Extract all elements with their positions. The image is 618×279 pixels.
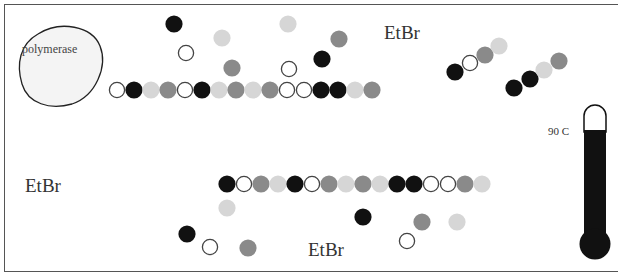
nucleotide-light xyxy=(213,29,230,46)
nucleotide-black xyxy=(405,175,422,192)
nucleotide-gray xyxy=(330,30,347,47)
nucleotide-gray xyxy=(239,239,256,256)
nucleotide-black xyxy=(505,79,522,96)
nucleotide-gray xyxy=(354,175,371,192)
nucleotide-light xyxy=(490,37,507,54)
polymerase-label: polymerase xyxy=(22,42,77,57)
nucleotide-open xyxy=(423,176,438,191)
nucleotide-gray xyxy=(261,81,278,98)
nucleotide-black xyxy=(125,81,142,98)
nucleotide-gray xyxy=(413,213,430,230)
nucleotide-black xyxy=(329,81,346,98)
etbr-label-top: EtBr xyxy=(384,22,420,44)
nucleotide-black xyxy=(178,225,195,242)
nucleotide-open xyxy=(304,176,319,191)
nucleotide-open xyxy=(440,176,455,191)
nucleotide-gray xyxy=(363,81,380,98)
nucleotide-light xyxy=(473,175,490,192)
nucleotide-black xyxy=(218,175,235,192)
nucleotide-light xyxy=(279,15,296,32)
nucleotide-black xyxy=(313,50,330,67)
nucleotide-light xyxy=(269,175,286,192)
nucleotide-light xyxy=(535,61,552,78)
nucleotide-light xyxy=(244,81,261,98)
nucleotide-gray xyxy=(223,59,240,76)
nucleotide-gray xyxy=(550,52,567,69)
nucleotide-open xyxy=(236,176,251,191)
nucleotide-light xyxy=(210,81,227,98)
nucleotide-black xyxy=(388,175,405,192)
nucleotide-black xyxy=(446,63,463,80)
nucleotide-black xyxy=(354,208,371,225)
dna-fragment-diagonal-1 xyxy=(446,37,507,80)
nucleotide-gray xyxy=(456,175,473,192)
nucleotide-light xyxy=(371,175,388,192)
nucleotide-gray xyxy=(252,175,269,192)
nucleotide-open xyxy=(178,45,193,60)
thermometer-icon xyxy=(580,105,611,260)
nucleotide-open xyxy=(279,82,294,97)
free-nucleotides xyxy=(165,15,465,256)
nucleotide-light xyxy=(448,213,465,230)
nucleotide-black xyxy=(312,81,329,98)
nucleotide-light xyxy=(337,175,354,192)
etbr-label-bottom: EtBr xyxy=(308,239,344,261)
nucleotide-gray xyxy=(227,81,244,98)
nucleotide-black xyxy=(286,175,303,192)
dna-fragment-diagonal-2 xyxy=(505,52,567,96)
nucleotide-open xyxy=(109,82,124,97)
nucleotide-gray xyxy=(320,175,337,192)
nucleotide-open xyxy=(177,82,192,97)
temperature-label: 90 C xyxy=(548,125,569,137)
nucleotide-black xyxy=(193,81,210,98)
nucleotide-light xyxy=(142,81,159,98)
etbr-label-left: EtBr xyxy=(25,175,61,197)
nucleotide-open xyxy=(202,239,217,254)
nucleotide-open xyxy=(462,55,477,70)
nucleotide-gray xyxy=(159,81,176,98)
dna-strand-top xyxy=(109,81,380,98)
dna-strand-bottom xyxy=(218,175,490,192)
nucleotide-open xyxy=(296,82,311,97)
nucleotide-light xyxy=(346,81,363,98)
nucleotide-black xyxy=(165,15,182,32)
polymerase-shape xyxy=(19,26,102,106)
nucleotide-light xyxy=(218,199,235,216)
nucleotide-open xyxy=(399,233,414,248)
nucleotide-open xyxy=(281,61,296,76)
